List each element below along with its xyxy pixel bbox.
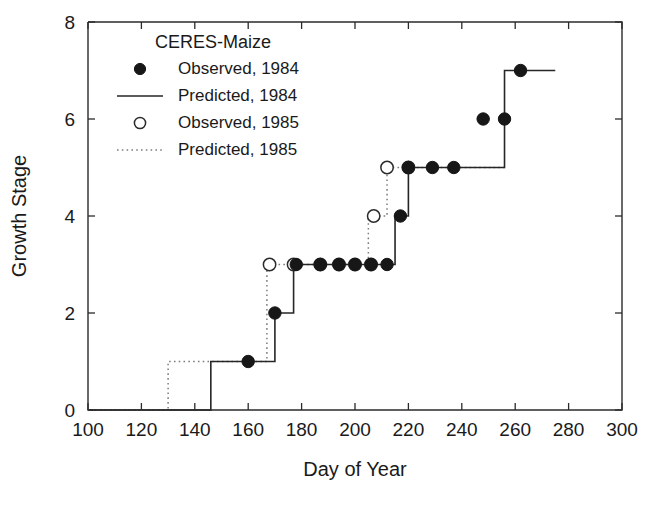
- observed-1985-marker: [263, 258, 275, 270]
- y-axis-title: Growth Stage: [8, 155, 30, 277]
- x-tick-label: 120: [126, 419, 158, 440]
- x-tick-label: 160: [232, 419, 264, 440]
- observed-1984-marker: [365, 258, 377, 270]
- y-tick-label: 6: [64, 109, 75, 130]
- growth-stage-line-chart: 100120140160180200220240260280300 02468 …: [0, 0, 665, 512]
- observed-1984-marker: [448, 161, 460, 173]
- observed-1984-marker: [314, 258, 326, 270]
- legend-label: Predicted, 1985: [178, 140, 297, 159]
- legend-marker-observed-1984: [134, 63, 145, 74]
- x-tick-label: 260: [499, 419, 531, 440]
- observed-1984-marker: [269, 307, 281, 319]
- observed-1984-marker: [426, 161, 438, 173]
- x-tick-label: 200: [339, 419, 371, 440]
- y-tick-label: 4: [64, 206, 75, 227]
- legend-label: Observed, 1985: [178, 113, 299, 132]
- x-axis-tick-labels: 100120140160180200220240260280300: [72, 419, 638, 440]
- observed-1984-marker: [477, 113, 489, 125]
- observed-1984-marker: [402, 161, 414, 173]
- legend-label: Predicted, 1984: [178, 86, 297, 105]
- y-tick-label: 8: [64, 12, 75, 33]
- observed-1984-marker: [333, 258, 345, 270]
- x-tick-label: 140: [179, 419, 211, 440]
- observed-1984-marker: [394, 210, 406, 222]
- x-tick-label: 220: [393, 419, 425, 440]
- observed-1984-marker: [349, 258, 361, 270]
- legend-marker-observed-1985: [134, 117, 145, 128]
- x-axis-title: Day of Year: [303, 458, 407, 480]
- observed-1984-marker: [290, 258, 302, 270]
- observed-1984-marker: [381, 258, 393, 270]
- legend-title: CERES-Maize: [155, 32, 271, 52]
- observed-1985-marker: [367, 210, 379, 222]
- observed-1985-marker: [381, 161, 393, 173]
- y-tick-label: 2: [64, 303, 75, 324]
- observed-1984-marker: [242, 355, 254, 367]
- chart-figure: 100120140160180200220240260280300 02468 …: [0, 0, 665, 512]
- x-tick-label: 300: [606, 419, 638, 440]
- observed-1984-marker: [498, 113, 510, 125]
- x-tick-label: 240: [446, 419, 478, 440]
- x-tick-label: 100: [72, 419, 104, 440]
- y-tick-label: 0: [64, 400, 75, 421]
- legend-label: Observed, 1984: [178, 59, 299, 78]
- x-tick-label: 180: [286, 419, 318, 440]
- observed-1984-marker: [514, 64, 526, 76]
- x-tick-label: 280: [553, 419, 585, 440]
